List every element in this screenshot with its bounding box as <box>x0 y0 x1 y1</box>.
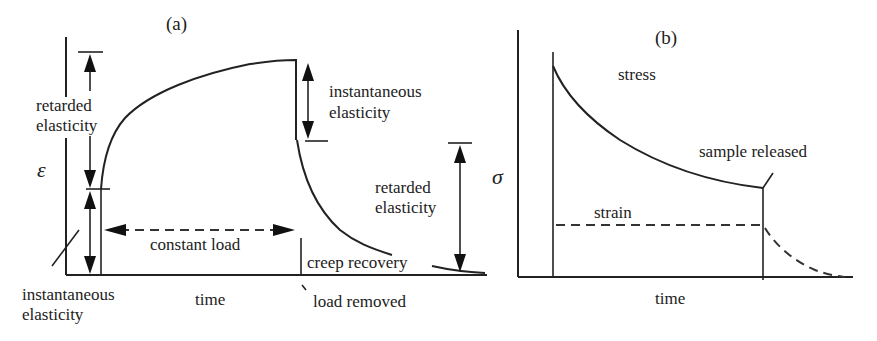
panel-b-title: (b) <box>655 27 677 49</box>
x-label-time-a: time <box>195 290 225 309</box>
label-retarded-elasticity-right-2: elasticity <box>375 198 437 217</box>
label-retarded-elasticity-top-2: elasticity <box>36 116 98 135</box>
arrow-up-icon <box>454 145 466 163</box>
arrow-up-icon <box>302 63 314 81</box>
panel-a-title: (a) <box>166 13 187 35</box>
arrow-down-icon <box>84 170 96 188</box>
arrow-up-icon <box>84 54 96 72</box>
label-strain: strain <box>594 203 632 222</box>
arrow-right-icon <box>273 224 295 236</box>
label-retarded-elasticity-top-1: retarded <box>36 96 92 115</box>
y-symbol-sigma: σ <box>492 164 504 189</box>
label-sample-released: sample released <box>699 142 808 161</box>
arrow-up-icon <box>84 191 96 209</box>
figure-canvas: (a) ε time retarded elasticity instantan… <box>0 0 877 341</box>
x-label-time-b: time <box>655 289 685 308</box>
label-instantaneous-elasticity-top-1: instantaneous <box>329 82 422 101</box>
label-creep-recovery: creep recovery <box>307 253 408 272</box>
arrow-down-icon <box>84 256 96 274</box>
label-stress: stress <box>618 65 656 84</box>
panel-b: (b) σ time stress sample released strain <box>492 27 853 308</box>
label-constant-load: constant load <box>150 235 241 254</box>
arrow-down-icon <box>302 121 314 139</box>
strain-decay-curve <box>765 228 845 277</box>
arrow-left-icon <box>104 224 126 236</box>
label-instantaneous-elasticity-bottom-1: instantaneous <box>22 285 115 304</box>
label-load-removed: load removed <box>313 292 406 311</box>
panel-a: (a) ε time retarded elasticity instantan… <box>22 13 487 324</box>
leader-load-removed <box>302 285 306 290</box>
stress-curve <box>553 66 763 188</box>
label-instantaneous-elasticity-bottom-2: elasticity <box>22 305 84 324</box>
label-retarded-elasticity-right-1: retarded <box>375 178 431 197</box>
leader-sample-released <box>763 173 773 188</box>
creep-curve <box>101 60 296 189</box>
y-symbol-epsilon: ε <box>37 157 46 182</box>
label-instantaneous-elasticity-top-2: elasticity <box>329 103 391 122</box>
